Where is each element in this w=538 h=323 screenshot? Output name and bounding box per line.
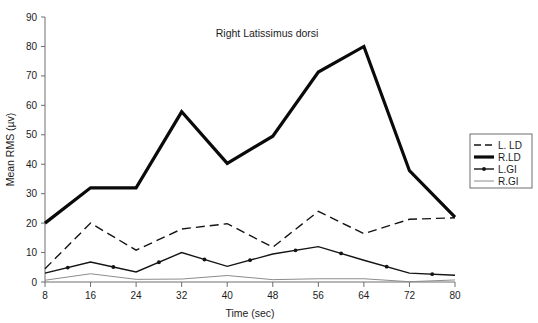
x-tick-label: 40	[222, 290, 234, 301]
data-point-marker	[385, 265, 389, 269]
data-point-marker	[203, 258, 207, 262]
data-point-marker	[248, 258, 252, 262]
y-tick-label: 0	[31, 277, 37, 288]
x-tick-label: 8	[42, 290, 48, 301]
x-tick-label: 80	[449, 290, 461, 301]
x-axis-title: Time (sec)	[225, 307, 274, 319]
y-tick-label: 10	[26, 247, 38, 258]
legend-label: L. LD	[498, 140, 522, 151]
chart-legend: L. LDR.LDL.GIR.GI	[470, 134, 532, 188]
chart-figure: 0102030405060708090 8162432404856647280 …	[0, 0, 538, 323]
data-point-marker	[111, 265, 115, 269]
chart-background	[0, 0, 538, 323]
legend-swatch-marker	[482, 167, 486, 171]
line-chart: 0102030405060708090 8162432404856647280 …	[0, 0, 538, 323]
data-point-marker	[66, 266, 70, 270]
y-tick-label: 70	[26, 70, 38, 81]
y-tick-label: 50	[26, 129, 38, 140]
y-axis-title: Mean RMS (µv)	[4, 113, 16, 187]
y-tick-label: 80	[26, 41, 38, 52]
y-tick-label: 20	[26, 218, 38, 229]
data-point-marker	[294, 248, 298, 252]
chart-title: Right Latissimus dorsi	[216, 27, 319, 39]
y-tick-label: 90	[26, 12, 38, 23]
x-tick-label: 16	[85, 290, 97, 301]
data-point-marker	[339, 252, 343, 256]
y-tick-label: 60	[26, 100, 38, 111]
legend-label: L.GI	[498, 164, 517, 175]
x-tick-label: 56	[313, 290, 325, 301]
x-tick-label: 48	[267, 290, 279, 301]
data-point-marker	[157, 260, 161, 264]
data-point-marker	[430, 272, 434, 276]
x-tick-label: 64	[358, 290, 370, 301]
y-tick-label: 40	[26, 159, 38, 170]
legend-label: R.GI	[498, 176, 519, 187]
legend-label: R.LD	[498, 152, 521, 163]
x-tick-label: 24	[131, 290, 143, 301]
x-tick-label: 32	[176, 290, 188, 301]
x-tick-label: 72	[404, 290, 416, 301]
y-tick-label: 30	[26, 188, 38, 199]
